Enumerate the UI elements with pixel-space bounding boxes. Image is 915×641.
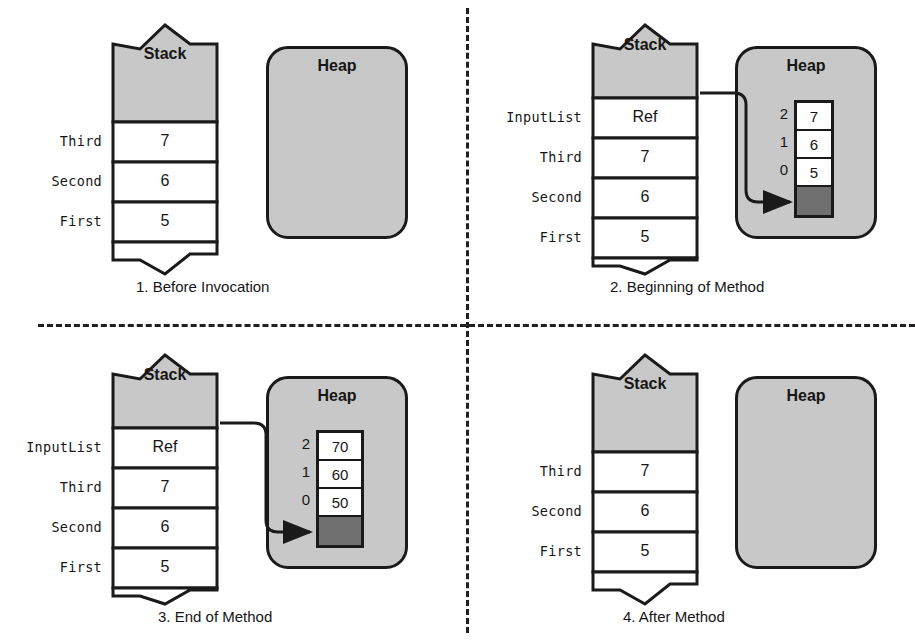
diagram-canvas: Stack Third 7 Second 6 First 5 Heap 1. B… [0, 0, 915, 641]
panel-end-of-method: Stack InputList Ref Third 7 Second 6 Fir… [0, 324, 466, 641]
stack-row-value-second: 6 [590, 188, 700, 206]
stack-row-value-first: 5 [590, 542, 700, 560]
stack-row-label-first: First [480, 543, 582, 559]
stack-row-value-third: 7 [110, 478, 220, 496]
stack-header-label: Stack [110, 366, 220, 384]
stack-row-label-third: Third [0, 479, 102, 495]
heap-title-label: Heap [266, 387, 408, 405]
stack-row-label-second: Second [0, 173, 102, 189]
stack-row-label-second: Second [480, 503, 582, 519]
stack-row-label-third: Third [480, 463, 582, 479]
panel-beginning-of-method: Stack InputList Ref Third 7 Second 6 Fir… [466, 0, 915, 324]
reference-pointer-arrow [218, 410, 328, 545]
stack-row-label-first: First [0, 559, 102, 575]
stack-row-value-third: 7 [110, 132, 220, 150]
panel-caption: 3. End of Method [158, 608, 272, 625]
stack-row-value-second: 6 [110, 518, 220, 536]
stack-header-label: Stack [590, 36, 700, 54]
heap-title-label: Heap [735, 57, 877, 75]
stack-row-value-inputlist: Ref [590, 108, 700, 126]
stack-row-value-first: 5 [110, 558, 220, 576]
stack-row-value-first: 5 [110, 212, 220, 230]
panel-caption: 1. Before Invocation [136, 278, 269, 295]
reference-pointer-arrow [698, 80, 808, 215]
stack-row-label-second: Second [0, 519, 102, 535]
stack-row-value-second: 6 [110, 172, 220, 190]
panel-caption: 2. Beginning of Method [610, 278, 764, 295]
stack-row-value-second: 6 [590, 502, 700, 520]
stack-row-label-first: First [466, 229, 582, 245]
stack-row-label-inputlist: InputList [0, 439, 102, 455]
heap-title-label: Heap [266, 57, 408, 75]
stack-row-value-third: 7 [590, 148, 700, 166]
stack-row-label-third: Third [466, 149, 582, 165]
stack-header-label: Stack [110, 45, 220, 63]
stack-row-label-third: Third [0, 133, 102, 149]
panel-before-invocation: Stack Third 7 Second 6 First 5 Heap 1. B… [0, 0, 466, 324]
stack-row-value-inputlist: Ref [110, 438, 220, 456]
panel-caption: 4. After Method [623, 608, 725, 625]
heap-title-label: Heap [735, 387, 877, 405]
stack-row-value-third: 7 [590, 462, 700, 480]
stack-row-label-first: First [0, 213, 102, 229]
panel-after-method: Stack Third 7 Second 6 First 5 Heap 4. A… [466, 324, 915, 641]
stack-row-label-second: Second [466, 189, 582, 205]
stack-header-label: Stack [590, 375, 700, 393]
stack-row-value-first: 5 [590, 228, 700, 246]
stack-row-label-inputlist: InputList [466, 109, 582, 125]
